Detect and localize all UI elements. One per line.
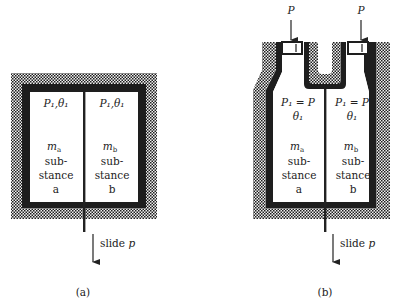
pressure-label-right: P [356, 4, 365, 16]
diagram-canvas: P₁,θ₁ P₁,θ₁ ma sub- stance a mb sub- sta… [0, 0, 402, 301]
state-label-a-right: P₁,θ₁ [98, 97, 124, 109]
wall-right-dark-b [370, 42, 376, 208]
piston-left[interactable] [282, 42, 302, 54]
slide-label-b: slide p [340, 237, 375, 249]
substance-label-a-left-2: stance [39, 169, 74, 181]
substance-label-b-right-2: stance [336, 169, 371, 181]
insulation-right-b [376, 42, 390, 219]
substance-label-a-right-1: sub- [101, 155, 124, 167]
divider-slide-b[interactable] [324, 89, 326, 232]
center-u-slot-b [318, 38, 332, 74]
state-label-b-left-2: θ₁ [293, 110, 304, 122]
state-label-b-right-2: θ₁ [347, 110, 358, 122]
substance-label-b-left-2: stance [282, 169, 317, 181]
slide-label-a: slide p [100, 237, 135, 249]
substance-label-b-right-3: b [350, 183, 357, 195]
substance-label-a-right-3: b [109, 183, 116, 195]
divider-slide-a[interactable] [83, 92, 85, 232]
substance-label-a-right-2: stance [95, 169, 130, 181]
caption-a: (a) [76, 286, 90, 298]
substance-label-a-left-3: a [53, 183, 59, 195]
state-label-b-left-1: P₁ = P [280, 96, 316, 108]
caption-b: (b) [318, 286, 333, 298]
panel-a: P₁,θ₁ P₁,θ₁ ma sub- stance a mb sub- sta… [11, 73, 157, 298]
panel-b: P P P₁ = P θ₁ P₁ = P θ₁ ma sub- stance a… [253, 4, 390, 298]
container-wall-b-bottom [266, 202, 376, 208]
state-label-a-left: P₁,θ₁ [42, 97, 68, 109]
substance-label-b-right-1: sub- [342, 155, 365, 167]
substance-label-b-left-3: a [296, 183, 302, 195]
substance-label-a-left-1: sub- [45, 155, 68, 167]
state-label-b-right-1: P₁ = P [334, 96, 370, 108]
piston-right[interactable] [348, 42, 368, 54]
substance-label-b-left-1: sub- [288, 155, 311, 167]
pressure-label-left: P [286, 4, 295, 16]
